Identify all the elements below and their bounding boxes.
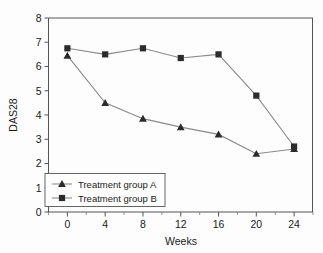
y-tick-label: 8 <box>36 12 42 24</box>
data-series-layer <box>63 45 298 157</box>
series-line <box>67 56 294 154</box>
legend-label: Treatment group A <box>78 179 157 190</box>
triangle-marker <box>139 115 147 122</box>
x-tick-label: 20 <box>250 218 262 230</box>
y-tick-label: 5 <box>36 85 42 97</box>
x-tick-label: 16 <box>213 218 225 230</box>
y-tick-label: 2 <box>36 157 42 169</box>
y-tick-label: 4 <box>36 109 42 121</box>
series-treatment-group-b <box>64 45 297 149</box>
x-axis-title: Weeks <box>165 235 197 247</box>
x-tick-label: 12 <box>175 218 187 230</box>
y-tick-label: 7 <box>36 36 42 48</box>
x-tick-label: 24 <box>288 218 300 230</box>
y-axis-title: DAS28 <box>7 98 19 131</box>
square-marker <box>64 45 70 51</box>
x-tick-label: 0 <box>64 218 70 230</box>
y-tick-label: 6 <box>36 60 42 72</box>
x-axis-ticks: 04812162024 <box>64 212 300 230</box>
legend-label: Treatment group B <box>78 193 157 204</box>
chart-legend: Treatment group ATreatment group B <box>45 174 165 207</box>
square-marker <box>102 51 108 57</box>
das28-line-chart: 012345678 04812162024 DAS28 Weeks Treatm… <box>0 0 323 253</box>
chart-figure: 012345678 04812162024 DAS28 Weeks Treatm… <box>0 0 323 253</box>
y-tick-label: 3 <box>36 133 42 145</box>
y-tick-label: 1 <box>36 182 42 194</box>
y-tick-label: 0 <box>36 206 42 218</box>
square-marker <box>59 195 65 201</box>
square-marker <box>178 55 184 61</box>
square-marker <box>291 143 297 149</box>
square-marker <box>253 93 259 99</box>
triangle-marker <box>63 52 71 59</box>
x-tick-label: 8 <box>140 218 146 230</box>
x-tick-label: 4 <box>102 218 108 230</box>
square-marker <box>215 51 221 57</box>
square-marker <box>140 45 146 51</box>
